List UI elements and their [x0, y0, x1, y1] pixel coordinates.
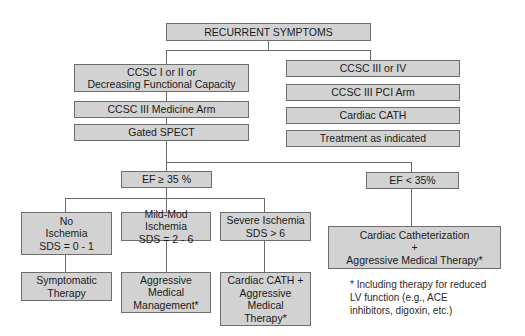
- box-label: Medical: [247, 299, 283, 312]
- mild-mod-ischemia-box: Mild-Mod Ischemia SDS = 2 - 6: [121, 212, 211, 241]
- box-label: +: [411, 241, 417, 254]
- box-label: Management*: [133, 299, 198, 312]
- connector-line: [264, 198, 265, 212]
- pci-arm-box: CCSC III PCI Arm: [286, 84, 460, 101]
- box-label: Severe Ischemia: [226, 214, 304, 227]
- connector-line: [166, 50, 167, 64]
- aggressive-medical-management-box: Aggressive Medical Management*: [121, 272, 211, 313]
- gated-spect-box: Gated SPECT: [74, 124, 249, 141]
- box-label: Aggressive Medical Therapy*: [346, 254, 482, 267]
- box-label: SDS = 0 - 1: [39, 240, 94, 253]
- symptomatic-therapy-box: Symptomatic Therapy: [21, 272, 112, 301]
- box-label: Gated SPECT: [128, 126, 195, 139]
- connector-line: [166, 162, 411, 163]
- box-label: Therapy*: [244, 312, 287, 325]
- box-label: Cardiac CATH +: [228, 274, 304, 287]
- box-label: No: [60, 215, 73, 228]
- footnote-line: LV function (e.g., ACE: [350, 291, 486, 304]
- box-label: Decreasing Functional Capacity: [87, 78, 235, 91]
- box-label: CCSC III or IV: [340, 62, 407, 75]
- box-label: CCSC III Medicine Arm: [108, 103, 216, 116]
- cardiac-cath-box: Cardiac CATH: [286, 107, 460, 124]
- box-label: Cardiac Catheterization: [360, 229, 470, 242]
- ccsc-iii-iv-box: CCSC III or IV: [286, 60, 460, 77]
- connector-line: [264, 240, 265, 272]
- footnote-line: inhibitors, digoxin, etc.): [350, 304, 486, 317]
- connector-line: [65, 198, 264, 199]
- ef-high-box: EF ≥ 35 %: [121, 171, 212, 188]
- medicine-arm-box: CCSC III Medicine Arm: [74, 101, 249, 118]
- ccsc-i-ii-box: CCSC I or II or Decreasing Functional Ca…: [74, 64, 249, 92]
- box-label: SDS > 6: [246, 227, 285, 240]
- box-label: Therapy: [47, 287, 86, 300]
- connector-line: [65, 198, 66, 212]
- treatment-as-indicated-box: Treatment as indicated: [286, 130, 460, 147]
- box-label: RECURRENT SYMPTOMS: [204, 26, 333, 39]
- severe-ischemia-box: Severe Ischemia SDS > 6: [220, 212, 311, 241]
- box-label: Medical: [148, 286, 184, 299]
- box-label: Treatment as indicated: [320, 132, 426, 145]
- box-label: Aggressive: [140, 274, 192, 287]
- cath-aggressive-therapy-box: Cardiac CATH + Aggressive Medical Therap…: [220, 272, 311, 326]
- box-label: CCSC III PCI Arm: [331, 86, 414, 99]
- recurrent-symptoms-box: RECURRENT SYMPTOMS: [166, 23, 371, 41]
- ef-low-box: EF < 35%: [366, 172, 459, 189]
- connector-line: [166, 50, 371, 51]
- box-label: EF < 35%: [389, 174, 435, 187]
- box-label: SDS = 2 - 6: [139, 233, 194, 246]
- box-label: Mild-Mod Ischemia: [122, 208, 210, 233]
- box-label: Cardiac CATH: [340, 109, 407, 122]
- cardiac-catheterization-box: Cardiac Catheterization + Aggressive Med…: [328, 226, 501, 269]
- box-label: Symptomatic: [36, 274, 97, 287]
- footnote: * Including therapy for reduced LV funct…: [350, 278, 486, 317]
- connector-line: [370, 50, 371, 60]
- box-label: EF ≥ 35 %: [142, 173, 191, 186]
- connector-line: [65, 254, 66, 272]
- footnote-line: * Including therapy for reduced: [350, 278, 486, 291]
- box-label: Ischemia: [45, 227, 87, 240]
- box-label: CCSC I or II or: [127, 66, 196, 79]
- no-ischemia-box: No Ischemia SDS = 0 - 1: [21, 212, 112, 255]
- box-label: Aggressive: [240, 287, 292, 300]
